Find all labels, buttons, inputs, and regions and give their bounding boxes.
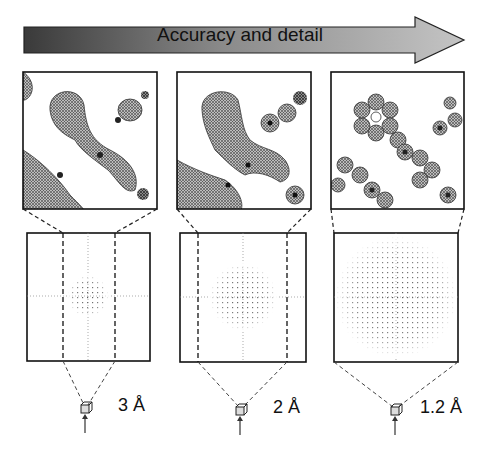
beam-arrow-2a: [237, 416, 243, 435]
crystal-icon-1-2a: [391, 404, 402, 415]
diffraction-pattern-1-2a: [331, 209, 464, 407]
resolution-label-1-2a: 1.2 Å: [420, 397, 462, 418]
crystal-icon-3a: [81, 402, 92, 413]
crystal-icon-2a: [236, 404, 247, 415]
diffraction-pattern-3a: [23, 209, 157, 405]
beam-arrow-1-2a: [392, 416, 398, 435]
resolution-label-3a: 3 Å: [118, 395, 145, 416]
beam-arrow-3a: [82, 414, 88, 433]
resolution-label-2a: 2 Å: [273, 397, 300, 418]
diffraction-pattern-2a: [177, 209, 311, 407]
density-map-3a: [23, 72, 157, 212]
diagram-canvas: [0, 0, 488, 459]
density-map-2a: [177, 72, 311, 212]
density-map-1-2a: [331, 72, 464, 209]
accuracy-arrow-label: Accuracy and detail: [100, 24, 380, 46]
